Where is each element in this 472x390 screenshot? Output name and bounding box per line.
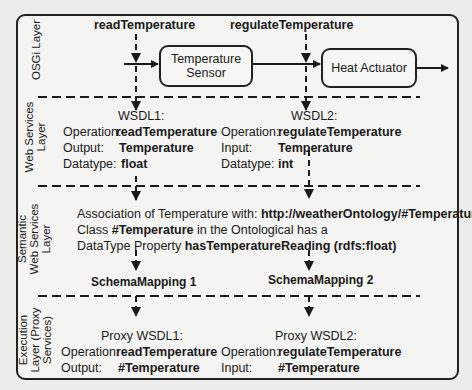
layer-label-line: Execution [17,300,29,380]
layer-label-web-services: Web Services Layer [23,97,49,177]
property-name: hasTemperatureReading (rdfs:float) [185,239,397,253]
proxy2-input-value: #Temperature [278,361,360,375]
layer-label-line: Web Services [23,97,35,177]
proxy-wsdl1-title: Proxy WSDL1: [101,329,183,343]
layer-label-line: Layer [40,196,52,282]
wsdl2-operation-value: regulateTemperature [278,125,401,139]
proxy2-input-label: Input: [221,361,252,375]
wsdl2-title: WSDL2: [291,109,338,123]
layer-label-line: Services) [41,300,53,380]
sensor-label-line: Sensor [171,66,241,80]
proxy2-operation-value: regulateTemperature [278,345,401,359]
wsdl1-title: WSDL1: [118,109,165,123]
semantic-class-line: Class #Temperature in the Ontological ha… [77,223,328,237]
sensor-label-line: Temperature [171,52,241,66]
proxy1-output-value: #Temperature [118,361,200,375]
layer-label-osgi: OSGi Layer [30,20,42,80]
semantic-property-line: DataType Property hasTemperatureReading … [77,239,396,253]
schema-mapping-2: SchemaMapping 2 [268,273,373,287]
wsdl1-output-label: Output: [63,141,104,155]
wsdl1-output-value: Temperature [119,141,194,155]
semantic-association-line: Association of Temperature with: http://… [77,207,472,221]
osgi-operation-regulate: regulateTemperature [230,18,353,32]
wsdl2-operation-label: Operation: [221,125,279,139]
schema-mapping-1: SchemaMapping 1 [91,275,196,289]
association-text: Association of Temperature with: [77,207,257,221]
wsdl2-input-label: Input: [221,141,252,155]
proxy1-output-label: Output: [61,361,102,375]
wsdl2-datatype-value: int [278,157,293,171]
layer-label-line: Web Services [28,196,40,282]
class-suffix: in the Ontological has a [197,223,328,237]
class-prefix: Class [77,223,108,237]
osgi-operation-read: readTemperature [94,18,195,32]
wsdl2-input-value: Temperature [278,141,353,155]
proxy-wsdl2-title: Proxy WSDL2: [275,329,357,343]
layer-label-line: Layer [35,97,47,177]
proxy1-operation-value: readTemperature [116,345,217,359]
wsdl1-datatype-label: Datatype: [63,157,117,171]
proxy2-operation-label: Operation: [221,345,279,359]
property-prefix: DataType Property [77,239,181,253]
temperature-sensor-box: Temperature Sensor [159,45,253,87]
heat-actuator-box: Heat Actuator [321,48,417,88]
class-name: #Temperature [112,223,194,237]
ontology-uri: http://weatherOntology/#Temperature [261,207,472,221]
layer-label-semantic: Semantic Web Services Layer [16,196,54,282]
layer-label-execution: Execution Layer (Proxy Services) [17,300,55,380]
wsdl1-operation-value: readTemperature [116,125,217,139]
layer-label-line: Layer (Proxy [29,300,41,380]
wsdl1-operation-label: Operation: [63,125,121,139]
proxy1-operation-label: Operation: [61,345,119,359]
wsdl1-datatype-value: float [121,157,147,171]
layer-label-line: Semantic [16,196,28,282]
wsdl2-datatype-label: Datatype: [221,157,275,171]
